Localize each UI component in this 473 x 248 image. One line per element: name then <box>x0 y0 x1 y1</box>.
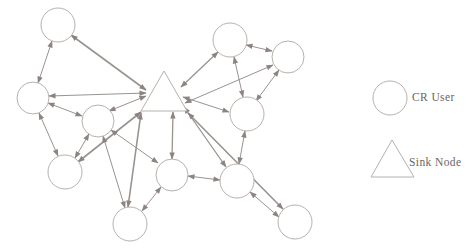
cr-user-node-u6 <box>156 159 188 191</box>
edge-u2-u4 <box>39 113 58 156</box>
edge-u9-u10 <box>239 131 245 164</box>
edge-u3-u5 <box>103 136 125 208</box>
edge-u2-sink <box>49 93 146 96</box>
cr-user-node-u7 <box>213 23 247 57</box>
cr-user-node-u2 <box>17 82 49 114</box>
sink-node <box>141 71 187 111</box>
edge-u10-u11 <box>250 192 279 217</box>
cr-user-node-u4 <box>48 155 82 189</box>
edge-u8-u9 <box>256 70 279 101</box>
edge-u7-u8 <box>246 45 272 51</box>
cr-user-node-u11 <box>278 205 312 239</box>
edge-u1-sink <box>71 35 146 90</box>
edge-u7-u9 <box>234 57 243 97</box>
legend-cr-user-label: CR User <box>412 91 455 104</box>
cr-user-node-u9 <box>230 97 264 131</box>
edge-u5-sink <box>128 113 141 207</box>
edge-u1-u2 <box>38 41 52 83</box>
legend-cr-user-shape <box>373 81 407 115</box>
edge-u3-sink <box>109 96 146 111</box>
legend-sink-node-label: Sink Node <box>409 156 461 169</box>
cr-user-node-u5 <box>113 207 147 241</box>
edge-u5-u6 <box>142 187 161 211</box>
edge-u6-sink <box>172 112 173 159</box>
diagram-canvas: CR User Sink Node <box>0 0 473 248</box>
edge-u2-u3 <box>48 103 82 116</box>
cr-user-node-u8 <box>272 41 304 73</box>
cr-user-node-u10 <box>220 164 254 198</box>
network-diagram <box>0 0 473 248</box>
cr-user-node-u3 <box>82 105 114 137</box>
edge-u9-sink <box>183 97 229 112</box>
cr-user-node-u1 <box>41 8 75 42</box>
edge-u7-sink <box>181 52 218 87</box>
edge-u6-u10 <box>188 176 220 180</box>
legend-sink-node-shape <box>371 140 414 177</box>
